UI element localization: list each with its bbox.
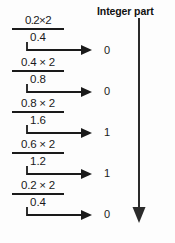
integer-digit: 1 — [100, 167, 114, 179]
step-expression: 0.6 × 2 — [12, 138, 64, 151]
step-arrow-icon — [14, 207, 92, 223]
integer-digit: 0 — [100, 44, 114, 56]
step-block: 0.6 × 2 1.2 — [12, 138, 108, 168]
step-expression: 0.2×2 — [12, 14, 64, 27]
integer-digit: 1 — [100, 126, 114, 138]
step-block: 0.4 × 2 0.8 — [12, 56, 108, 86]
step-expression: 0.4 × 2 — [12, 56, 64, 69]
step-block: 0.2 × 2 0.4 — [12, 179, 108, 209]
binary-conversion-diagram: Integer part 0.2×2 0.4 0 0.4 × 2 0.8 0 0… — [0, 0, 175, 243]
integer-digit: 0 — [100, 85, 114, 97]
integer-part-arrow-icon — [127, 18, 151, 226]
step-expression: 0.2 × 2 — [12, 179, 64, 192]
step-block: 0.8 × 2 1.6 — [12, 97, 108, 127]
step-expression: 0.8 × 2 — [12, 97, 64, 110]
integer-digit: 0 — [100, 208, 114, 220]
step-block: 0.2×2 0.4 — [12, 14, 108, 44]
